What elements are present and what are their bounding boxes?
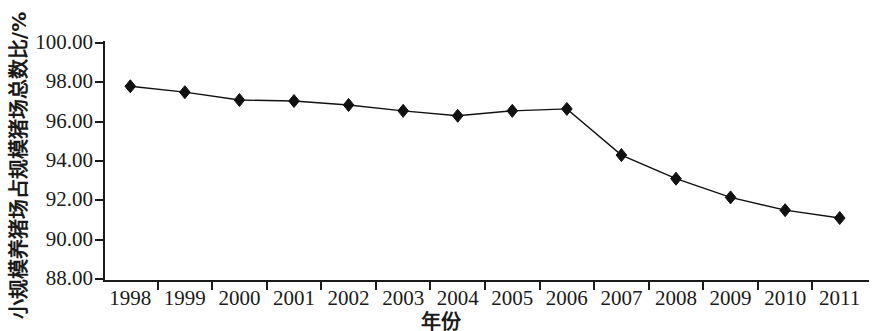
x-axis-title: 年份 <box>0 306 882 331</box>
data-point-marker <box>507 104 518 117</box>
data-point-marker <box>616 149 627 162</box>
data-point-marker <box>834 212 845 225</box>
data-point-marker <box>452 109 463 122</box>
data-point-marker <box>343 98 354 111</box>
data-point-marker <box>725 191 736 204</box>
data-point-marker <box>671 172 682 185</box>
series-markers <box>125 80 845 225</box>
data-point-marker <box>562 102 573 115</box>
data-point-marker <box>125 80 136 93</box>
data-point-marker <box>780 204 791 217</box>
series-plot <box>0 0 882 331</box>
chart-figure: 小规模养猪场占规模猪场总数比/% 100.0098.0096.0094.0092… <box>0 0 882 331</box>
data-point-marker <box>398 104 409 117</box>
data-point-marker <box>234 94 245 107</box>
data-point-marker <box>180 86 191 99</box>
data-point-marker <box>289 95 300 108</box>
